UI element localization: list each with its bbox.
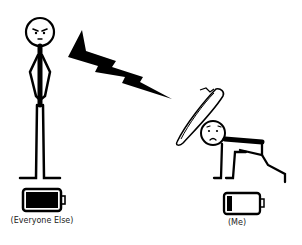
everyone-else-caption: (Everyone Else)	[4, 216, 80, 225]
battery-full-icon	[23, 189, 65, 211]
me-figure	[201, 121, 285, 182]
comic-illustration	[0, 0, 302, 245]
lightning-bolt-icon	[68, 30, 172, 99]
angry-face-icon	[26, 18, 54, 46]
everyone-else-figure	[20, 18, 60, 178]
me-caption: (Me)	[222, 218, 252, 227]
worried-face-icon	[201, 121, 225, 145]
battery-low-icon	[224, 193, 264, 214]
